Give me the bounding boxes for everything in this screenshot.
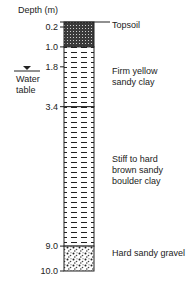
layer-label: Topsoil bbox=[112, 20, 140, 30]
water-table-icon bbox=[23, 66, 31, 70]
depth-tick-label: 9.0 bbox=[45, 241, 58, 251]
layer-dotted-dark bbox=[64, 22, 94, 47]
borehole-log: Depth (m) 0.21.01.83.49.010.0 TopsoilFir… bbox=[0, 0, 189, 292]
layer-gravel bbox=[64, 246, 94, 271]
layer-label: Stiff to hardbrown sandyboulder clay bbox=[112, 154, 164, 186]
depth-tick-label: 1.0 bbox=[45, 42, 58, 52]
layer-dashes bbox=[64, 107, 94, 246]
axis-title: Depth (m) bbox=[18, 5, 58, 15]
depth-tick-label: 10.0 bbox=[40, 266, 58, 276]
layer-dashes bbox=[64, 47, 94, 107]
depth-tick-label: 1.8 bbox=[45, 62, 58, 72]
depth-tick-label: 0.2 bbox=[45, 22, 58, 32]
layer-label: Hard sandy gravel bbox=[112, 248, 185, 258]
water-table-label: Watertable bbox=[16, 74, 40, 95]
depth-tick-label: 3.4 bbox=[45, 102, 58, 112]
layer-label: Firm yellowsandy clay bbox=[112, 66, 158, 87]
